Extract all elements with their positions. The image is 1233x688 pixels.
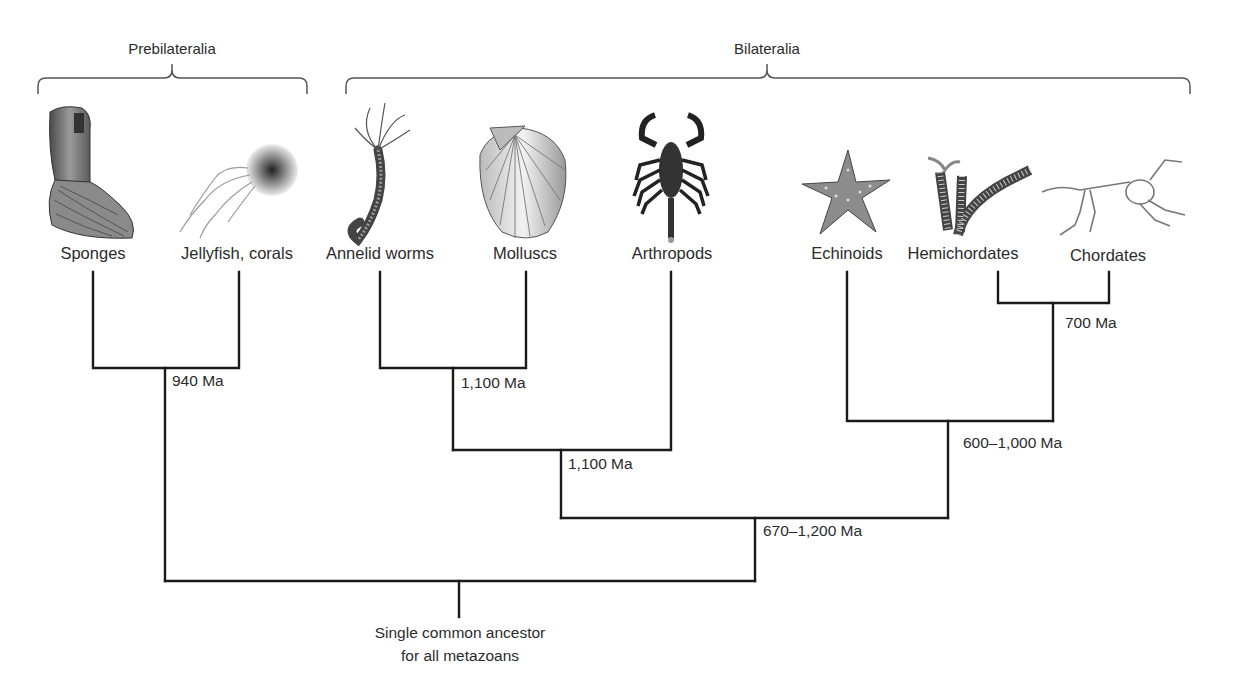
branch-deuterostomes bbox=[847, 272, 1053, 421]
taxon-label-molluscs: Molluscs bbox=[493, 244, 557, 263]
branch-sponges-jellyfish bbox=[93, 272, 239, 368]
divergence-label-hemichordates-chordates: 700 Ma bbox=[1065, 314, 1117, 332]
taxon-label-annelid-worms: Annelid worms bbox=[326, 244, 434, 263]
starfish-icon bbox=[802, 150, 890, 234]
divergence-label-sponges-jellyfish: 940 Ma bbox=[172, 372, 224, 390]
jellyfish-icon bbox=[180, 144, 298, 238]
acorn-worm-icon bbox=[928, 158, 1030, 235]
taxon-label-jellyfish-corals: Jellyfish, corals bbox=[181, 244, 293, 263]
divergence-label-annelid-molluscs: 1,100 Ma bbox=[461, 374, 526, 392]
branch-hemichordates-chordates bbox=[998, 272, 1109, 303]
divergence-label-protostomes: 1,100 Ma bbox=[568, 455, 633, 473]
taxon-label-chordates: Chordates bbox=[1070, 246, 1146, 265]
bracket-bilateralia bbox=[346, 64, 1190, 94]
root-label: Single common ancestor for all metazoans bbox=[375, 621, 546, 667]
taxon-label-sponges: Sponges bbox=[60, 244, 125, 263]
taxon-label-echinoids: Echinoids bbox=[811, 244, 883, 263]
bracket-prebilateralia bbox=[38, 64, 307, 94]
scorpion-icon bbox=[634, 115, 708, 243]
root-label-line2: for all metazoans bbox=[375, 644, 546, 667]
root-label-line1: Single common ancestor bbox=[375, 621, 546, 644]
branch-annelid-molluscs bbox=[380, 272, 526, 368]
sponge-icon bbox=[49, 107, 133, 239]
taxon-label-arthropods: Arthropods bbox=[632, 244, 713, 263]
worm-icon bbox=[352, 103, 410, 240]
divergence-label-bilateria: 670–1,200 Ma bbox=[763, 522, 862, 540]
phylogenetic-tree bbox=[0, 0, 1233, 688]
skeleton-icon bbox=[1042, 160, 1185, 235]
divergence-label-deuterostomes: 600–1,000 Ma bbox=[963, 434, 1062, 452]
tree-branches bbox=[93, 272, 1109, 617]
shell-icon bbox=[480, 126, 566, 238]
group-label-bilateralia: Bilateralia bbox=[734, 40, 800, 57]
group-label-prebilateralia: Prebilateralia bbox=[128, 40, 216, 57]
taxon-label-hemichordates: Hemichordates bbox=[908, 244, 1019, 263]
branch-protostomes bbox=[453, 272, 671, 450]
